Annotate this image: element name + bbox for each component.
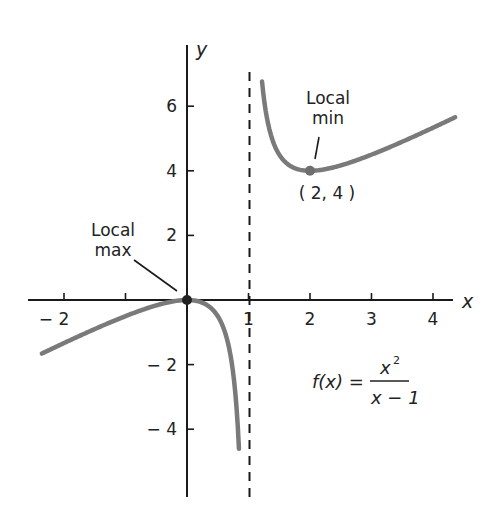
x-tick-label: 3 [366,309,377,329]
y-tick-label: 2 [166,225,177,245]
axes [28,45,453,497]
local-max-leader-line [134,260,177,291]
formula-denominator: x − 1 [370,387,420,408]
formula-numerator-exponent: 2 [393,354,400,367]
left-branch-curve [42,300,239,449]
local-min-label-line2: min [312,108,344,128]
x-tick-label: − 2 [39,309,69,329]
x-tick-label: 1 [243,309,254,329]
local-max-label-line2: max [94,240,131,260]
local-min-leader-line [315,137,319,159]
y-tick-label: − 4 [147,419,177,439]
y-tick-label: − 2 [147,355,177,375]
local-min-annotation: Local min ( 2, 4 ) [299,88,356,203]
local-min-point [305,166,315,176]
x-tick-label: 2 [305,309,316,329]
y-axis-label: y [195,38,208,60]
x-axis-label: x [461,290,474,312]
y-tick-label: 6 [166,96,177,116]
local-max-point [182,295,192,305]
function-formula: f(x) = x 2 x − 1 [312,354,420,408]
local-min-coords: ( 2, 4 ) [299,183,356,203]
local-max-label-line1: Local [91,220,135,240]
local-min-label-line1: Local [306,88,350,108]
x-tick-label: 4 [428,309,439,329]
function-graph: − 21234642− 2− 4 x y Local max Local min… [0,0,501,510]
right-branch-curve [262,81,455,170]
y-tick-label: 4 [166,161,177,181]
local-max-annotation: Local max [91,220,177,291]
formula-lhs: f(x) = [312,371,364,392]
formula-numerator: x [379,357,391,378]
